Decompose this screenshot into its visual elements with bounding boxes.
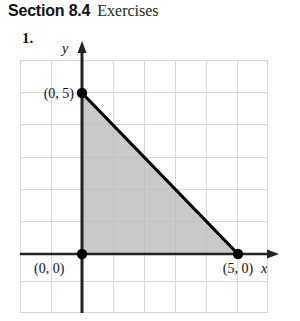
- point-5-0: [233, 249, 243, 259]
- y-axis-label: y: [60, 41, 69, 56]
- exercise-figure-page: Section 8.4Exercises 1.: [0, 0, 300, 321]
- point-label-0-5: (0, 5): [44, 86, 75, 102]
- graph-figure: y x (0, 5) (0, 0) (5, 0): [0, 0, 300, 321]
- point-label-0-0: (0, 0): [34, 261, 65, 277]
- point-0-0: [77, 249, 87, 259]
- point-0-5: [77, 88, 87, 98]
- coordinate-plane-svg: y x (0, 5) (0, 0) (5, 0): [0, 0, 300, 321]
- point-label-5-0: (5, 0): [223, 261, 254, 277]
- x-axis-label: x: [260, 261, 268, 276]
